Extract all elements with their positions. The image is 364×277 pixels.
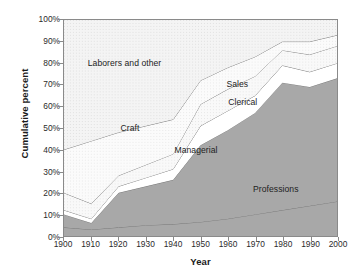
y-tick-label: 10% <box>26 211 60 219</box>
series-label: Clerical <box>228 98 257 107</box>
y-tick-label: 60% <box>26 102 60 110</box>
x-tick-label: 2000 <box>318 240 358 248</box>
y-tick-label: 40% <box>26 146 60 154</box>
stacked-area-series <box>64 20 337 236</box>
y-tick-label: 20% <box>26 189 60 197</box>
series-label: Managerial <box>174 146 217 155</box>
y-tick-label: 30% <box>26 168 60 176</box>
series-label: Sales <box>226 80 248 89</box>
y-tick-label: 70% <box>26 80 60 88</box>
y-tick-label: 80% <box>26 59 60 67</box>
series-label: Craft <box>121 124 140 133</box>
x-axis-title: Year <box>63 256 338 267</box>
y-axis-tick-labels: 100% 90% 80% 70% 60% 50% 40% 30% 20% 10%… <box>20 0 60 277</box>
y-tick-label: 90% <box>26 37 60 45</box>
series-label: Laborers and other <box>88 59 162 68</box>
chart-figure: Cumulative percent 100% 90% 80% 70% 60% … <box>0 0 364 277</box>
y-tick-label: 50% <box>26 124 60 132</box>
y-tick-label: 100% <box>26 15 60 23</box>
series-label: Professions <box>253 185 298 194</box>
plot-area: Laborers and otherCraftSalesClericalMana… <box>63 19 338 237</box>
